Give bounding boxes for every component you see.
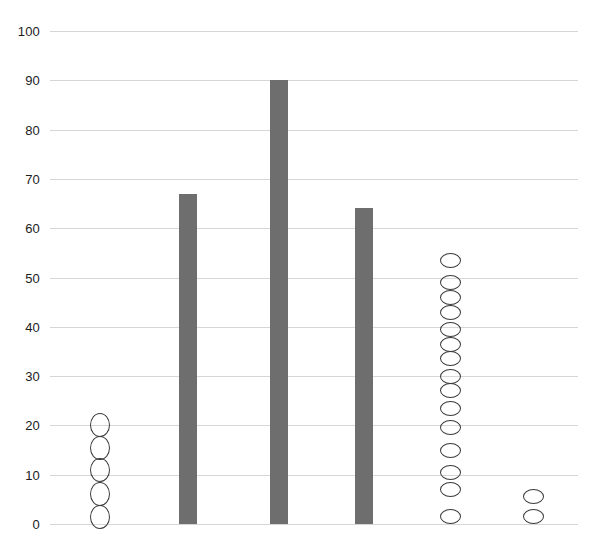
gridline-60	[50, 228, 578, 229]
y-tick-label-10: 10	[25, 469, 40, 482]
gridline-80	[50, 130, 578, 131]
scatter-marker-5-5	[440, 322, 461, 337]
chart-container: 0102030405060708090100	[0, 0, 595, 550]
gridline-10	[50, 475, 578, 476]
scatter-marker-5-12	[440, 443, 461, 458]
bar-3	[270, 80, 288, 524]
scatter-marker-5-3	[440, 290, 461, 305]
gridline-40	[50, 327, 578, 328]
y-tick-label-50: 50	[25, 272, 40, 285]
scatter-marker-5-15	[440, 509, 461, 524]
scatter-marker-5-10	[440, 401, 461, 416]
y-tick-label-40: 40	[25, 321, 40, 334]
y-tick-label-90: 90	[25, 74, 40, 87]
y-tick-label-30: 30	[25, 370, 40, 383]
gridline-20	[50, 425, 578, 426]
scatter-marker-5-6	[440, 337, 461, 352]
scatter-marker-1-5	[90, 505, 110, 529]
gridline-100	[50, 31, 578, 32]
y-tick-label-100: 100	[18, 25, 40, 38]
y-tick-label-60: 60	[25, 222, 40, 235]
gridline-0	[50, 524, 578, 525]
scatter-marker-5-2	[440, 275, 461, 290]
scatter-marker-1-4	[90, 482, 110, 506]
scatter-marker-5-1	[440, 253, 461, 268]
gridline-30	[50, 376, 578, 377]
scatter-marker-5-7	[440, 351, 461, 366]
scatter-marker-1-3	[90, 458, 110, 482]
y-tick-label-70: 70	[25, 173, 40, 186]
scatter-marker-5-4	[440, 305, 461, 320]
scatter-marker-5-8	[440, 369, 461, 384]
y-tick-label-80: 80	[25, 124, 40, 137]
y-tick-label-20: 20	[25, 419, 40, 432]
scatter-marker-5-14	[440, 482, 461, 497]
scatter-marker-6-2	[523, 509, 544, 524]
scatter-marker-5-9	[440, 383, 461, 398]
bar-4	[355, 208, 373, 524]
bar-2	[179, 194, 197, 524]
scatter-marker-5-11	[440, 420, 461, 435]
gridline-50	[50, 278, 578, 279]
gridline-90	[50, 80, 578, 81]
y-tick-label-0: 0	[33, 518, 40, 531]
plot-area: 0102030405060708090100	[0, 0, 595, 550]
scatter-marker-1-2	[90, 436, 110, 460]
scatter-marker-5-13	[440, 465, 461, 480]
scatter-marker-6-1	[523, 489, 544, 504]
scatter-marker-1-1	[90, 413, 110, 437]
gridline-70	[50, 179, 578, 180]
